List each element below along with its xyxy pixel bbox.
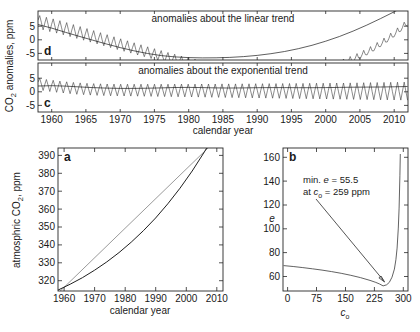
panel-b-annotation-line1: min. e = 55.5 — [303, 174, 358, 185]
panel-c-ytick-1: 0 — [29, 86, 35, 97]
panel-c-xtick-7: 1995 — [280, 114, 303, 125]
panel-a-ylabel-post: , ppm — [11, 172, 22, 197]
panel-a-xtick-4: 2000 — [175, 293, 198, 304]
panel-d-ytick-0: 5 — [29, 21, 35, 32]
panel-c-title: anomalies about the exponential trend — [138, 65, 308, 76]
panel-a-xtick-0: 1960 — [53, 293, 76, 304]
annot1-post: = 55.5 — [329, 174, 358, 185]
panel-b-axis-box — [283, 148, 408, 291]
panel-c-xtick-4: 1980 — [178, 114, 201, 125]
panel-b-xtick-4: 300 — [395, 293, 412, 304]
panel-c-xtick-10: 2010 — [383, 114, 406, 125]
panel-c-ytick-0: 5 — [29, 73, 35, 84]
panel-b-xtick-1: 75 — [311, 293, 323, 304]
panel-c-seasonal-series — [38, 78, 408, 100]
panel-a-ytick-1: 380 — [38, 168, 55, 179]
panel-a-xtick-2: 1980 — [114, 293, 137, 304]
panel-b-ytick-4: 80 — [269, 247, 281, 258]
annot2-post: = 259 ppm — [322, 186, 370, 197]
panel-b-xtick-3: 225 — [366, 293, 383, 304]
panel-a-yticks: 390 380 370 360 350 340 330 320 — [38, 150, 223, 286]
figure-container: CO2 anomalies, ppm 5 0 -5 — [0, 0, 420, 332]
panel-a-ytick-2: 370 — [38, 186, 55, 197]
panel-a-label: a — [64, 150, 71, 164]
top-panels-ylabel: CO2 anomalies, ppm — [4, 20, 18, 113]
panel-b-ytick-3: 100 — [263, 223, 280, 234]
top-ylabel-co: CO — [4, 97, 15, 112]
panel-a-linear-trend — [58, 134, 223, 294]
panel-d-title: anomalies about the linear trend — [152, 13, 295, 24]
panel-c-xticklabels: 1960 1965 1970 1975 1980 1985 1990 1995 … — [41, 114, 406, 125]
panel-a-ytick-4: 350 — [38, 221, 55, 232]
panel-b: 160 140 120 100 80 60 0 75 150 225 300 b… — [263, 148, 412, 320]
panel-c-xtick-0: 1960 — [41, 114, 64, 125]
panel-c: 5 0 -5 — [26, 63, 408, 136]
panel-b-label: b — [289, 150, 296, 164]
figure-svg: CO2 anomalies, ppm 5 0 -5 — [0, 0, 420, 332]
panel-c-xtick-3: 1975 — [143, 114, 166, 125]
panel-c-label: c — [44, 96, 51, 110]
panel-a-ytick-6: 330 — [38, 257, 55, 268]
panel-a-xtick-1: 1970 — [83, 293, 106, 304]
panel-a-ytick-0: 390 — [38, 150, 55, 161]
panel-a-xtick-3: 1990 — [145, 293, 168, 304]
panel-b-xtick-0: 0 — [285, 293, 291, 304]
panel-c-xlabel: calendar year — [193, 125, 254, 136]
panel-b-xticks: 0 75 150 225 300 — [285, 148, 412, 304]
panel-b-ytick-1: 140 — [263, 176, 280, 187]
annot2-pre: at — [303, 186, 314, 197]
panel-c-xtick-8: 2000 — [315, 114, 338, 125]
panel-a-ytick-3: 360 — [38, 204, 55, 215]
panel-c-xtick-1: 1965 — [75, 114, 98, 125]
panel-a-xlabel: calendar year — [110, 305, 171, 316]
panel-c-xtick-5: 1985 — [212, 114, 235, 125]
panel-c-xtick-6: 1990 — [246, 114, 269, 125]
panel-b-annotation: min. e = 55.5 at co = 259 ppm — [303, 174, 385, 282]
panel-a-ytick-5: 340 — [38, 239, 55, 250]
panel-a-ylabel: atmosphric CO2, ppm — [11, 172, 25, 268]
panel-b-xlabel: co — [341, 307, 350, 320]
panel-b-xlabel-sub: o — [346, 313, 350, 320]
panel-c-xtick-9: 2005 — [349, 114, 372, 125]
panel-d-ytick-1: 0 — [29, 34, 35, 45]
panel-b-annotation-arrow-shaft — [316, 199, 384, 281]
panel-d-ytick-2: -5 — [26, 48, 35, 59]
panel-c-ytick-2: -5 — [26, 100, 35, 111]
panel-b-ytick-5: 60 — [269, 271, 281, 282]
panel-a-exponential-trend — [58, 119, 223, 290]
panel-d-label: d — [44, 44, 51, 58]
panel-b-ytick-0: 160 — [263, 152, 280, 163]
panel-b-ylabel: e — [269, 213, 275, 224]
panel-b-yticks: 160 140 120 100 80 60 — [263, 152, 408, 282]
panel-a-xticks: 1960 1970 1980 1990 2000 2010 — [53, 148, 228, 304]
annot1-pre: min. — [303, 174, 324, 185]
panel-a-ylabel-pre: atmosphric CO — [11, 201, 22, 268]
panel-c-xtick-2: 1970 — [109, 114, 132, 125]
panel-a: 390 380 370 360 350 340 330 320 1960 197… — [11, 119, 228, 316]
svg-text:CO2 anomalies, ppm: CO2 anomalies, ppm — [4, 20, 18, 113]
panel-b-ytick-2: 120 — [263, 199, 280, 210]
panel-a-ytick-7: 320 — [38, 275, 55, 286]
top-ylabel-rest: anomalies, ppm — [4, 20, 15, 93]
panel-b-annotation-line2: at co = 259 ppm — [303, 186, 370, 199]
panel-a-xtick-5: 2010 — [206, 293, 229, 304]
panel-b-xtick-2: 150 — [337, 293, 354, 304]
